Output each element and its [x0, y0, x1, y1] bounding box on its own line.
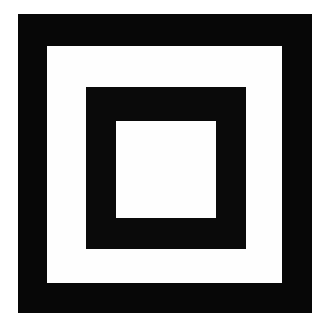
- middle-black-frame: [86, 87, 246, 249]
- outer-white-gap: [47, 46, 282, 283]
- inner-white-square: [116, 121, 216, 218]
- nested-squares-figure: [0, 0, 330, 336]
- outer-black-frame: [18, 14, 312, 313]
